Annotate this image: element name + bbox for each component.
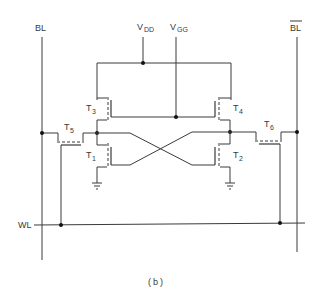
vdd-supply: V DD — [137, 22, 154, 63]
t4-label-sub: 4 — [239, 108, 243, 115]
vgg-supply: V GG — [170, 22, 188, 117]
sram-cell-diagram: BL BL V DD V GG T 3 T 4 — [0, 0, 320, 302]
wl-node-right — [278, 221, 282, 225]
vdd-label-main: V — [137, 22, 143, 32]
wl-label: WL — [18, 220, 32, 230]
transistor-t2: T 2 — [215, 132, 243, 183]
t1-label-sub: 1 — [92, 155, 96, 162]
transistor-t1: T 1 — [86, 133, 111, 183]
vgg-label-sub: GG — [177, 26, 188, 33]
transistor-t5: T 5 — [42, 122, 97, 225]
t6-label-sub: 6 — [270, 124, 274, 131]
bl-label: BL — [35, 23, 46, 33]
transistor-t6: T 6 — [230, 119, 297, 223]
vdd-rail — [97, 63, 231, 100]
ground-t1 — [92, 183, 102, 189]
vgg-label-main: V — [170, 22, 176, 32]
t2-label-sub: 2 — [239, 155, 243, 162]
figure-caption: (b) — [148, 277, 165, 287]
vdd-node — [141, 61, 145, 65]
wl-node-left — [59, 223, 63, 227]
transistor-t3: T 3 — [86, 97, 176, 133]
bit-line-bl-bar: BL — [290, 21, 302, 252]
cross-couple-right-to-t1 — [111, 132, 230, 165]
t3-label-sub: 3 — [92, 108, 96, 115]
bl-bar-label: BL — [290, 23, 301, 33]
bl-node — [40, 131, 44, 135]
t5-label-sub: 5 — [70, 127, 74, 134]
ground-t2 — [225, 183, 235, 189]
cross-couple-left-to-t2 — [97, 133, 215, 165]
vgg-node — [174, 115, 178, 119]
transistor-t4: T 4 — [176, 97, 243, 132]
bl-bar-node — [295, 130, 299, 134]
vdd-label-sub: DD — [144, 26, 154, 33]
